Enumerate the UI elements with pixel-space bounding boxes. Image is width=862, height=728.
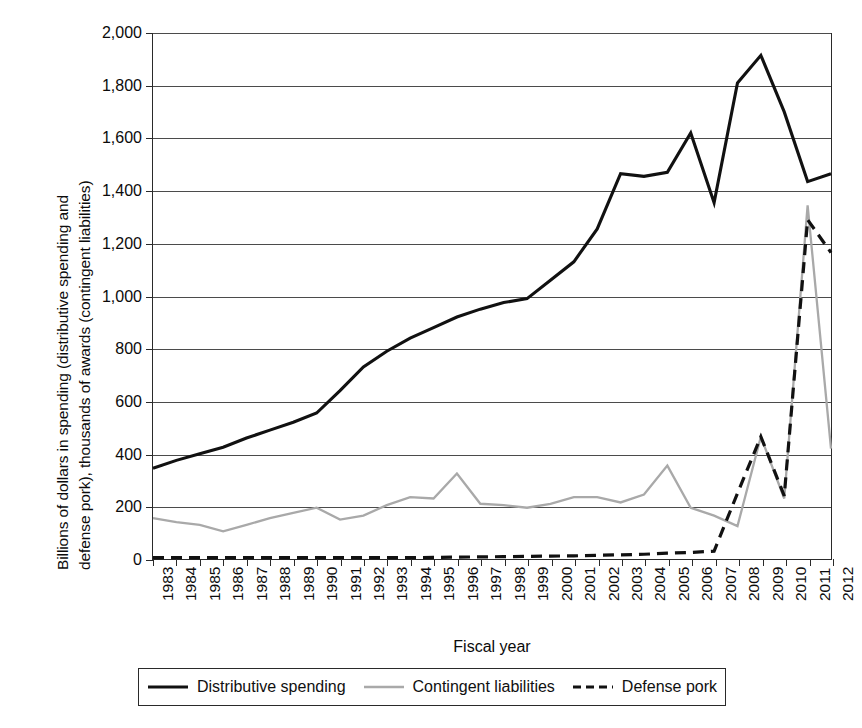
y-axis-tick [146,86,153,87]
y-axis-tick-label: 2,000 [102,24,142,42]
x-axis-tick-label: 2007 [722,567,740,601]
series-lines [153,33,831,559]
x-axis-tick [176,559,177,566]
legend-item-contingent-liabilities[interactable]: Contingent liabilities [363,678,555,696]
x-axis-tick [223,559,224,566]
y-axis-tick-label: 1,400 [102,182,142,200]
x-axis-tick-label: 1998 [511,567,529,601]
x-axis-tick-label: 1992 [370,567,388,601]
legend-item-label: Defense pork [622,678,717,696]
x-axis-tick [387,559,388,566]
legend-item-defense-pork[interactable]: Defense pork [572,678,717,696]
x-axis-tick-label: 2010 [792,567,810,601]
x-axis-tick-label: 1996 [464,567,482,601]
x-axis-tick-label: 1994 [417,567,435,601]
x-axis-tick-label: 1984 [182,567,200,601]
x-axis-tick-label: 1999 [534,567,552,601]
legend-item-label: Distributive spending [197,678,346,696]
y-axis-tick [146,244,153,245]
x-axis-tick [153,559,154,566]
series-line-contingent-liabilities [153,205,831,531]
x-axis-tick [317,559,318,566]
y-axis-tick [146,138,153,139]
line-chart-figure: Billions of dollars in spending (distrib… [0,0,862,728]
x-axis-tick-label: 1987 [253,567,271,601]
x-axis-tick [458,559,459,566]
y-axis-tick-label: 1,800 [102,77,142,95]
chart-legend: Distributive spendingContingent liabilit… [138,668,726,706]
x-axis-tick [692,559,693,566]
x-axis-tick-label: 2002 [605,567,623,601]
x-axis-tick [622,559,623,566]
y-axis-tick [146,560,153,561]
y-axis-tick [146,507,153,508]
x-axis-tick [669,559,670,566]
y-axis-tick [146,191,153,192]
x-axis-tick-label: 2011 [816,568,834,601]
x-axis-tick [200,559,201,566]
y-axis-tick [146,402,153,403]
series-line-defense-pork [153,220,831,558]
x-axis-tick-label: 1995 [440,567,458,601]
x-axis-tick [810,559,811,566]
x-axis-tick-label: 2000 [558,567,576,601]
x-axis-title: Fiscal year [152,638,832,656]
x-axis-tick [411,559,412,566]
solid-black-line-swatch [147,681,189,693]
x-axis-tick [739,559,740,566]
x-axis-tick [716,559,717,566]
x-axis-tick [599,559,600,566]
legend-item-label: Contingent liabilities [413,678,555,696]
x-axis-tick-label: 2008 [745,567,763,601]
y-axis-tick-label: 1,600 [102,129,142,147]
x-axis-tick [294,559,295,566]
x-axis-tick [786,559,787,566]
x-axis-tick [645,559,646,566]
x-axis-tick-label: 1988 [276,567,294,601]
x-axis-tick [505,559,506,566]
x-axis-tick [528,559,529,566]
x-axis-tick-label: 2006 [698,567,716,601]
y-axis-title: Billions of dollars in spending (distrib… [52,10,97,570]
y-axis-tick-label: 600 [115,393,142,411]
series-line-distributive-spending [153,55,831,468]
x-axis-tick-label: 2012 [839,567,857,601]
x-axis-tick-label: 2001 [581,567,599,601]
x-axis-tick-label: 1990 [323,567,341,601]
x-axis-tick-label: 1989 [300,567,318,601]
x-axis-tick [247,559,248,566]
y-axis-tick [146,297,153,298]
y-axis-tick-label: 400 [115,446,142,464]
x-axis-tick [434,559,435,566]
x-axis-tick-label: 1986 [229,567,247,601]
x-axis-tick [364,559,365,566]
y-axis-tick-label: 1,200 [102,235,142,253]
y-axis-tick-label: 1,000 [102,288,142,306]
y-axis-tick-label: 0 [133,551,142,569]
x-axis-tick [833,559,834,566]
y-axis-tick [146,455,153,456]
x-axis-tick-label: 1997 [487,567,505,601]
x-axis-tick-label: 2005 [675,567,693,601]
x-axis-tick [341,559,342,566]
x-axis-tick-label: 2004 [651,567,669,601]
x-axis-tick-label: 2003 [628,567,646,601]
y-axis-tick [146,349,153,350]
y-axis-title-container: Billions of dollars in spending (distrib… [0,0,62,600]
x-axis-tick-label: 1985 [206,567,224,601]
y-axis-tick-label: 800 [115,340,142,358]
y-axis-tick [146,33,153,34]
x-axis-tick [552,559,553,566]
x-axis-tick-label: 1991 [347,567,365,601]
x-axis-tick-label: 1983 [159,567,177,601]
y-axis-tick-label: 200 [115,498,142,516]
x-axis-tick [481,559,482,566]
x-axis-tick [763,559,764,566]
x-axis-tick [270,559,271,566]
plot-area: 02004006008001,0001,2001,4001,6001,8002,… [152,33,832,560]
x-axis-tick-label: 2009 [769,567,787,601]
x-axis-tick [575,559,576,566]
legend-item-distributive-spending[interactable]: Distributive spending [147,678,346,696]
x-axis-tick-label: 1993 [393,567,411,601]
solid-gray-line-swatch [363,681,405,693]
